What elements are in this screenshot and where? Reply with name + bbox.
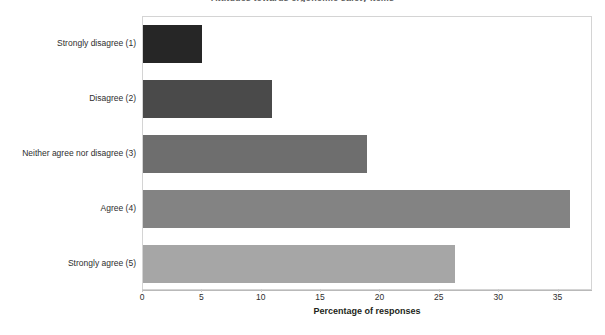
x-axis-tick-label: 20 <box>375 292 384 302</box>
x-axis-tick-label: 30 <box>493 292 502 302</box>
x-axis-tick-label: 35 <box>553 292 562 302</box>
x-axis-ticks: 05101520253035 <box>0 292 605 306</box>
x-axis-line <box>142 290 592 291</box>
bar <box>143 190 570 228</box>
x-axis-tick-label: 10 <box>256 292 265 302</box>
y-axis-labels: Strongly disagree (1)Disagree (2)Neither… <box>0 16 136 290</box>
y-axis-tick-label: Strongly disagree (1) <box>0 38 136 48</box>
bar <box>143 25 202 63</box>
x-axis-tick-label: 25 <box>434 292 443 302</box>
bar-chart: Attitudes towards ergonomic safety items… <box>0 0 605 335</box>
plot-area <box>142 16 592 290</box>
bar <box>143 80 272 118</box>
bar <box>143 245 455 283</box>
y-axis-tick-label: Agree (4) <box>0 203 136 213</box>
chart-title: Attitudes towards ergonomic safety items <box>0 0 605 2</box>
x-axis-tick-label: 15 <box>315 292 324 302</box>
y-axis-tick-label: Strongly agree (5) <box>0 258 136 268</box>
bar <box>143 135 367 173</box>
x-axis-title: Percentage of responses <box>142 306 592 316</box>
x-axis-tick-label: 5 <box>199 292 204 302</box>
x-axis-tick-label: 0 <box>140 292 145 302</box>
y-axis-tick-label: Disagree (2) <box>0 93 136 103</box>
y-axis-tick-label: Neither agree nor disagree (3) <box>0 148 136 158</box>
